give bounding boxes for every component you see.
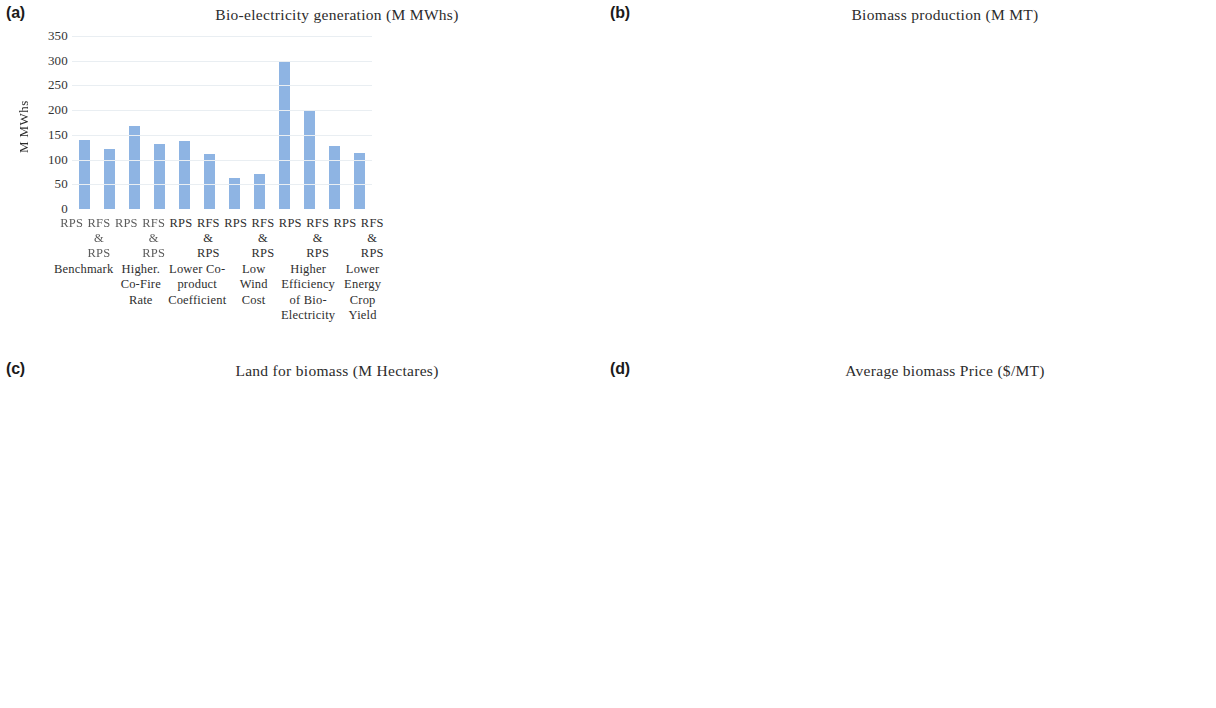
panel-a-y-tick-labels: 050100150200250300350 bbox=[2, 36, 68, 209]
group-label: Lower Energy Crop Yield bbox=[337, 262, 388, 323]
bar-slot bbox=[197, 36, 222, 209]
gridline bbox=[72, 160, 372, 161]
bar-slot bbox=[322, 36, 347, 209]
bar bbox=[129, 126, 140, 209]
bar-slot bbox=[347, 36, 372, 209]
gridline bbox=[72, 184, 372, 185]
x-tick-label: RPS bbox=[58, 216, 85, 260]
y-tick-label: 300 bbox=[48, 53, 68, 69]
y-tick-label: 150 bbox=[48, 127, 68, 143]
panel-c-title: Land for biomass (M Hectares) bbox=[80, 362, 594, 380]
panel-a-title: Bio-electricity generation (M MWhs) bbox=[80, 6, 594, 24]
bar bbox=[354, 153, 365, 209]
group-label: Higher. Co-Fire Rate bbox=[115, 262, 166, 323]
panel-b-title: Biomass production (M MT) bbox=[684, 6, 1206, 24]
gridline bbox=[72, 36, 372, 37]
gridline bbox=[72, 61, 372, 62]
bar-slot bbox=[72, 36, 97, 209]
x-tick-label: RFS &RPS bbox=[85, 216, 112, 260]
bar-slot bbox=[247, 36, 272, 209]
bar bbox=[329, 146, 340, 209]
gridline bbox=[72, 135, 372, 136]
bar-slot bbox=[297, 36, 322, 209]
x-tick-label: RPS bbox=[222, 216, 249, 260]
group-label: Higher Efficiency of Bio-Electricity bbox=[279, 262, 337, 323]
y-tick-label: 100 bbox=[48, 152, 68, 168]
panel-a-x-tick-labels: RPSRFS &RPSRPSRFS &RPSRPSRFS &RPSRPSRFS … bbox=[58, 216, 386, 260]
panel-c-tag: (c) bbox=[6, 360, 25, 378]
bar-slot bbox=[147, 36, 172, 209]
panel-a-group-labels: BenchmarkHigher. Co-Fire RateLower Co-pr… bbox=[52, 262, 388, 323]
panel-b-biomass-production: (b) Biomass production (M MT) M MT 05010… bbox=[604, 0, 1216, 356]
bar-slot bbox=[122, 36, 147, 209]
gridline bbox=[72, 85, 372, 86]
x-tick-label: RPS bbox=[167, 216, 194, 260]
bar bbox=[204, 154, 215, 209]
x-tick-label: RPS bbox=[277, 216, 304, 260]
panel-d-average-biomass-price: (d) Average biomass Price ($/MT) $/MT 02… bbox=[604, 356, 1216, 708]
panel-a-plot-area bbox=[72, 36, 372, 209]
bar bbox=[79, 140, 90, 209]
bar-slot bbox=[97, 36, 122, 209]
x-tick-label: RFS &RPS bbox=[249, 216, 276, 260]
panel-a-bioelectricity-generation: (a) Bio-electricity generation (M MWhs) … bbox=[0, 0, 604, 356]
bar bbox=[229, 178, 240, 209]
panel-b-tag: (b) bbox=[610, 4, 630, 22]
x-tick-label: RFS &RPS bbox=[195, 216, 222, 260]
bar-slot bbox=[272, 36, 297, 209]
bar bbox=[179, 141, 190, 209]
bar bbox=[154, 144, 165, 209]
y-tick-label: 50 bbox=[55, 176, 68, 192]
gridline bbox=[72, 110, 372, 111]
panel-d-tag: (d) bbox=[610, 360, 630, 378]
panel-c-land-for-biomass: (c) Land for biomass (M Hectares) M Hect… bbox=[0, 356, 604, 708]
panel-a-tag: (a) bbox=[6, 4, 25, 22]
x-tick-label: RFS &RPS bbox=[359, 216, 386, 260]
panel-d-title: Average biomass Price ($/MT) bbox=[684, 362, 1206, 380]
panel-b-y-tick-labels: 050100150200250300350400 bbox=[1212, 42, 1216, 210]
group-label: Low Wind Cost bbox=[228, 262, 279, 323]
bar-slot bbox=[172, 36, 197, 209]
x-tick-label: RPS bbox=[113, 216, 140, 260]
group-label: Benchmark bbox=[52, 262, 115, 323]
figure-panel-grid: (a) Bio-electricity generation (M MWhs) … bbox=[0, 0, 1216, 708]
group-label: Lower Co-product Coefficient bbox=[166, 262, 228, 323]
panel-a-bars bbox=[72, 36, 372, 209]
x-tick-label: RFS &RPS bbox=[140, 216, 167, 260]
bar-slot bbox=[222, 36, 247, 209]
bar bbox=[104, 149, 115, 209]
bar bbox=[254, 174, 265, 209]
x-tick-label: RFS &RPS bbox=[304, 216, 331, 260]
y-tick-label: 350 bbox=[48, 28, 68, 44]
x-tick-label: RPS bbox=[331, 216, 358, 260]
y-tick-label: 0 bbox=[61, 201, 68, 217]
y-tick-label: 200 bbox=[48, 102, 68, 118]
y-tick-label: 250 bbox=[48, 77, 68, 93]
